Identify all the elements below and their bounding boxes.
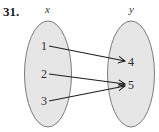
range-element-5: 5 bbox=[128, 78, 134, 92]
problem-number: 31. bbox=[3, 4, 19, 19]
domain-element-2: 2 bbox=[41, 67, 47, 81]
range-element-4: 4 bbox=[128, 55, 134, 69]
domain-element-1: 1 bbox=[41, 39, 47, 53]
domain-label: x bbox=[44, 3, 50, 15]
domain-element-3: 3 bbox=[41, 94, 47, 108]
mapping-diagram: 31. x y 1 2 3 4 5 bbox=[0, 0, 159, 132]
domain-ellipse bbox=[25, 21, 72, 127]
range-label: y bbox=[128, 3, 134, 15]
range-ellipse bbox=[108, 21, 155, 127]
